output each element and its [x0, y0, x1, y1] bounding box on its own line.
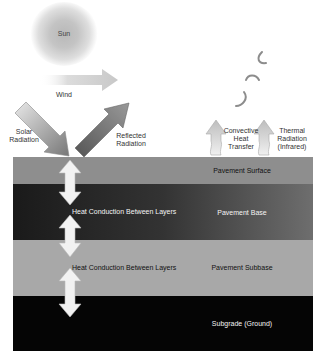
diagram-graphics: [0, 0, 324, 360]
reflected-radiation-label: Reflected Radiation: [111, 132, 151, 148]
wind-arrow-icon: [40, 69, 118, 91]
conduction-arrow-2-icon: [59, 215, 81, 257]
conduction-arrow-3-icon: [59, 268, 81, 317]
heat-conduction-label-2: Heat Conduction Between Layers: [72, 264, 176, 272]
heat-wisp-icon: [236, 52, 266, 106]
thermal-radiation-label: Thermal Radiation (Infrared): [272, 127, 312, 151]
convective-heat-transfer-label: Convective Heat Transfer: [222, 127, 260, 151]
pavement-surface-label: Pavement Surface: [205, 167, 279, 175]
subgrade-label: Subgrade (Ground): [205, 320, 279, 328]
pavement-subbase-label: Pavement Subbase: [205, 264, 279, 272]
reflected-radiation-arrow-icon: [75, 103, 129, 157]
wind-label: Wind: [52, 91, 76, 99]
pavement-base-label: Pavement Base: [205, 209, 279, 217]
heat-conduction-label-1: Heat Conduction Between Layers: [72, 208, 176, 216]
solar-radiation-label: Solar Radiation: [6, 128, 42, 144]
conduction-arrow-1-icon: [59, 160, 81, 205]
